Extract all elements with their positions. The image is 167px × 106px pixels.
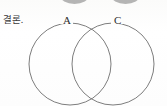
- set-label-a: A: [63, 15, 71, 26]
- venn-circle-c: [72, 23, 154, 105]
- venn-circle-a: [29, 23, 111, 105]
- venn-diagram: [0, 0, 167, 106]
- worksheet-fragment: 결론. A C: [0, 0, 167, 106]
- set-label-c: C: [114, 15, 121, 26]
